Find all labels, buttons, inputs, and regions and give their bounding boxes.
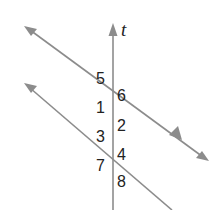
angle-label-7: 7 bbox=[96, 157, 105, 174]
angle-label-6: 6 bbox=[117, 87, 126, 104]
angle-label-3: 3 bbox=[96, 128, 105, 145]
angle-label-2: 2 bbox=[117, 117, 126, 134]
parallel-lines-diagram: t 5 6 1 2 3 4 7 8 bbox=[0, 0, 223, 210]
transversal-arrowhead-icon bbox=[109, 23, 118, 36]
angle-label-4: 4 bbox=[117, 146, 126, 163]
transversal-label: t bbox=[121, 19, 127, 40]
angle-label-5: 5 bbox=[96, 70, 105, 87]
angle-label-8: 8 bbox=[117, 173, 126, 190]
angle-label-1: 1 bbox=[96, 99, 105, 116]
